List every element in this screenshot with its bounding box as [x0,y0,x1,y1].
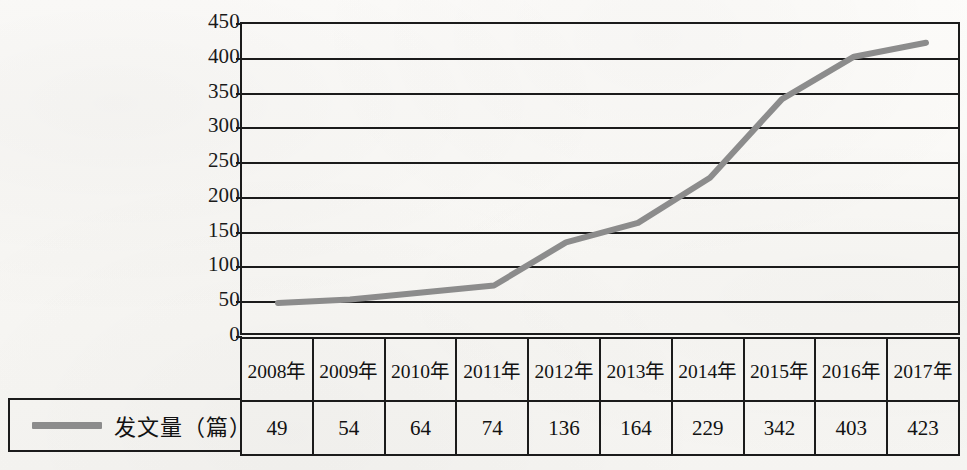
table-cell-year-7: 2015年 [744,338,816,401]
table-row-years: 2008年2009年2010年2011年2012年2013年2014年2015年… [241,338,959,401]
table-cell-value-8: 403 [815,401,887,455]
table-cell-value-9: 423 [887,401,959,455]
table-cell-year-9: 2017年 [887,338,959,401]
legend-label: 发文量（篇） [114,409,252,441]
y-axis-tick-300: 300 [120,115,240,136]
legend-line-marker-icon [32,422,102,429]
y-axis-tick-250: 250 [120,150,240,171]
table-cell-year-2: 2010年 [385,338,457,401]
table-cell-value-5: 164 [600,401,672,455]
table-cell-year-3: 2011年 [456,338,528,401]
series-line-发文量 [278,43,926,303]
table-cell-value-6: 229 [672,401,744,455]
data-table-wrapper: 2008年2009年2010年2011年2012年2013年2014年2015年… [240,337,960,452]
table-row-values: 49546474136164229342403423 [241,401,959,455]
table-cell-year-8: 2016年 [815,338,887,401]
table-cell-year-0: 2008年 [241,338,313,401]
table-cell-year-1: 2009年 [313,338,385,401]
y-axis-tick-50: 50 [120,289,240,310]
data-table: 2008年2009年2010年2011年2012年2013年2014年2015年… [240,337,960,456]
table-cell-value-3: 74 [456,401,528,455]
y-axis-tick-450: 450 [120,11,240,32]
y-axis-tick-200: 200 [120,185,240,206]
table-cell-value-1: 54 [313,401,385,455]
table-cell-value-4: 136 [528,401,600,455]
table-cell-year-6: 2014年 [672,338,744,401]
line-chart-figure: 450400350300250200150100500 2008年2009年20… [0,0,967,470]
legend: 发文量（篇） [8,398,242,452]
y-axis-tick-150: 150 [120,220,240,241]
y-axis-tick-0: 0 [120,324,240,345]
y-axis-tick-350: 350 [120,81,240,102]
series-line-svg [242,24,962,337]
table-cell-year-5: 2013年 [600,338,672,401]
y-axis-tick-400: 400 [120,46,240,67]
table-cell-value-2: 64 [385,401,457,455]
table-cell-year-4: 2012年 [528,338,600,401]
table-cell-value-7: 342 [744,401,816,455]
plot-area [240,22,960,335]
y-axis-tick-100: 100 [120,254,240,275]
